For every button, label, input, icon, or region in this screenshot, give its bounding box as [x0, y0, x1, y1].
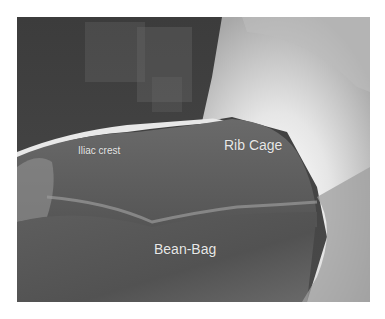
label-rib-cage: Rib Cage: [224, 138, 282, 152]
clinical-photo: Iliac crest Rib Cage Bean-Bag: [17, 17, 370, 302]
label-iliac-crest: Iliac crest: [78, 146, 120, 156]
photo-illustration: [17, 17, 370, 302]
label-bean-bag: Bean-Bag: [154, 242, 216, 256]
